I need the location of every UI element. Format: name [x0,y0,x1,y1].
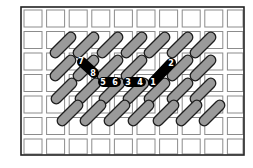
grid-cell [227,139,243,154]
stitch-number-3: 3 [125,78,131,87]
stitch-number-7: 7 [78,57,84,66]
stitch-number-8: 8 [90,69,96,78]
grid-cell [227,32,243,49]
grid-cell [24,10,42,27]
stitch-number-2: 2 [168,59,174,68]
grid-cell [114,139,132,154]
stitch-diagram: 12345678 [0,0,253,168]
grid-cell [137,10,155,27]
grid-cell [182,139,200,154]
stitch-number-1: 1 [150,78,156,87]
grid-cell [47,139,65,154]
stitch-number-6: 6 [112,78,118,87]
stitch-number-5: 5 [100,78,106,87]
grid-cell [205,10,223,27]
grid-cell [227,10,243,27]
grid-cell [92,139,110,154]
grid-cell [47,10,65,27]
grid-cell [137,139,155,154]
grid-cell [24,53,42,70]
grid-cell [227,75,243,92]
grid-cell [69,10,87,27]
grid-cell [24,118,42,135]
grid-cell [24,75,42,92]
grid-cell [227,118,243,135]
grid-cell [69,139,87,154]
grid-cell [160,139,178,154]
grid-cell [92,10,110,27]
stitch-number-4: 4 [137,78,143,87]
grid-cell [160,10,178,27]
grid-cell [227,53,243,70]
grid-cell [205,139,223,154]
grid-cell [24,32,42,49]
grid-cell [114,10,132,27]
grid-cell [227,96,243,113]
grid-cell [24,96,42,113]
grid-cell [24,139,42,154]
grid-cell [182,10,200,27]
